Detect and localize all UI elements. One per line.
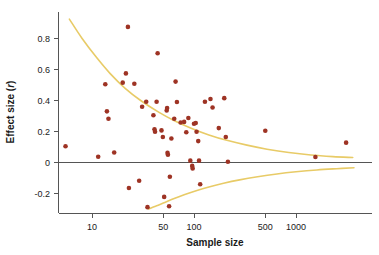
y-tick-label: -0.2 <box>34 189 50 199</box>
data-point <box>168 174 173 179</box>
data-point <box>175 100 180 105</box>
y-axis-title: Effect size (r) <box>5 81 16 144</box>
funnel-plot-figure: -0.200.20.40.60.8 10501005001000 Sample … <box>0 0 379 255</box>
data-point <box>224 135 229 140</box>
data-point <box>96 154 101 159</box>
upper-funnel-bound <box>69 19 352 157</box>
data-point <box>194 130 199 135</box>
data-point <box>161 135 166 140</box>
data-point <box>182 120 187 125</box>
y-tick-label: 0.4 <box>37 96 50 106</box>
data-point <box>145 205 150 210</box>
data-point <box>132 81 137 86</box>
x-tick-label: 10 <box>87 222 97 232</box>
y-axis-ticks: -0.200.20.40.60.8 <box>34 34 58 199</box>
data-point <box>151 113 156 118</box>
data-point <box>197 158 202 163</box>
data-point <box>216 126 221 131</box>
data-point <box>166 152 171 157</box>
y-tick-label: 0.2 <box>37 127 50 137</box>
data-point <box>165 106 170 111</box>
data-point <box>186 116 191 121</box>
x-tick-label: 100 <box>186 222 201 232</box>
x-axis-ticks: 10501005001000 <box>87 214 306 233</box>
data-point <box>313 155 318 160</box>
scatter-chart: -0.200.20.40.60.8 10501005001000 Sample … <box>0 0 379 255</box>
data-point <box>155 51 160 56</box>
data-point <box>226 159 231 164</box>
data-point <box>196 139 201 144</box>
x-tick-label: 50 <box>158 222 168 232</box>
data-point <box>208 97 213 102</box>
data-points <box>63 25 348 210</box>
data-point <box>63 144 68 149</box>
data-point <box>210 105 215 110</box>
data-point <box>173 79 178 84</box>
data-point <box>137 178 142 183</box>
y-tick-label: 0.6 <box>37 65 50 75</box>
lower-funnel-bound <box>149 168 354 209</box>
data-point <box>112 150 117 155</box>
data-point <box>120 80 125 85</box>
data-point <box>144 99 149 104</box>
y-tick-label: 0.8 <box>37 34 50 44</box>
data-point <box>263 128 268 133</box>
y-axis-title-suffix: ) <box>5 81 16 84</box>
x-axis-title: Sample size <box>186 237 244 248</box>
data-point <box>154 99 159 104</box>
data-point <box>140 104 145 109</box>
x-tick-label: 500 <box>258 222 273 232</box>
data-point <box>193 121 198 126</box>
data-point <box>167 204 172 209</box>
data-point <box>222 96 227 101</box>
data-point <box>159 128 164 133</box>
data-point <box>344 140 349 145</box>
data-point <box>105 109 110 114</box>
x-tick-label: 1000 <box>286 222 306 232</box>
data-point <box>203 99 208 104</box>
data-point <box>103 82 108 87</box>
data-point <box>190 166 195 171</box>
data-point <box>188 158 193 163</box>
funnel-curves <box>69 19 354 209</box>
data-point <box>169 136 174 141</box>
data-point <box>172 116 177 121</box>
data-point <box>153 130 158 135</box>
data-point <box>162 195 167 200</box>
data-point <box>127 186 132 191</box>
data-point <box>124 71 129 76</box>
y-tick-label: 0 <box>45 158 50 168</box>
data-point <box>198 182 203 187</box>
svg-text:Effect size (r): Effect size (r) <box>5 81 16 144</box>
y-axis-title-prefix: Effect size ( <box>5 87 16 143</box>
data-point <box>184 130 189 135</box>
data-point <box>106 116 111 121</box>
data-point <box>126 25 131 30</box>
